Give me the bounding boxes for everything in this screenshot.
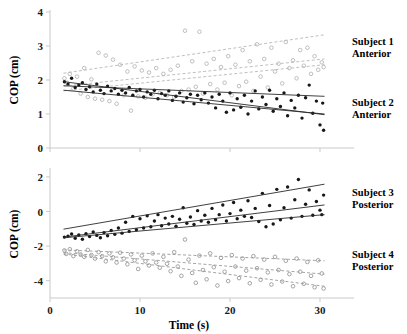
data-point bbox=[322, 65, 326, 69]
data-point bbox=[275, 188, 278, 191]
data-point bbox=[133, 258, 137, 262]
panel-top-panel: 01234COP (cm) bbox=[8, 6, 354, 154]
data-point bbox=[70, 232, 73, 235]
data-point bbox=[306, 260, 310, 264]
data-point bbox=[129, 109, 133, 113]
y-axis-title: COP (cm) bbox=[8, 209, 21, 258]
data-point bbox=[280, 82, 284, 86]
data-point bbox=[108, 99, 112, 103]
data-point bbox=[255, 43, 259, 47]
data-point bbox=[270, 283, 274, 287]
data-point bbox=[304, 96, 307, 99]
data-point bbox=[309, 274, 313, 278]
data-point bbox=[262, 57, 266, 61]
legend-label-line1: Subject 1 bbox=[352, 36, 394, 47]
data-point bbox=[162, 255, 166, 259]
legend-subject-1: Subject 1Anterior bbox=[352, 36, 394, 59]
data-point bbox=[232, 201, 235, 204]
legend-subject-4: Subject 4Posterior bbox=[352, 249, 394, 272]
data-point bbox=[95, 82, 98, 85]
data-point bbox=[90, 78, 94, 82]
data-point bbox=[190, 60, 194, 64]
data-point bbox=[322, 193, 325, 196]
legend-label-line2: Anterior bbox=[352, 48, 391, 59]
y-tick-label: -4 bbox=[34, 275, 44, 287]
data-point bbox=[286, 114, 289, 117]
data-point bbox=[236, 97, 239, 100]
data-point bbox=[254, 207, 257, 210]
data-point bbox=[248, 60, 252, 64]
data-point bbox=[212, 265, 216, 269]
data-point bbox=[140, 69, 144, 73]
data-point bbox=[82, 66, 86, 70]
data-point bbox=[164, 216, 167, 219]
data-point bbox=[288, 272, 292, 276]
y-axis-title: COP (cm) bbox=[8, 55, 21, 104]
data-point bbox=[208, 252, 212, 256]
data-point bbox=[244, 80, 248, 84]
data-point bbox=[93, 97, 97, 101]
series-2 bbox=[63, 238, 326, 291]
figure-container: 01234COP (cm)Subject 1AnteriorSubject 2A… bbox=[0, 0, 407, 334]
data-point bbox=[308, 188, 311, 191]
data-point bbox=[104, 54, 108, 58]
data-point bbox=[205, 278, 209, 282]
data-point bbox=[214, 106, 217, 109]
data-point bbox=[309, 72, 313, 76]
data-point bbox=[293, 198, 296, 201]
data-point bbox=[115, 102, 119, 106]
plot-area bbox=[63, 29, 326, 132]
trend-line bbox=[64, 35, 325, 73]
data-point bbox=[219, 65, 223, 69]
data-point bbox=[144, 260, 148, 264]
data-point bbox=[183, 29, 187, 33]
data-point bbox=[318, 208, 321, 211]
data-point bbox=[241, 48, 245, 52]
legend-label-line2: Posterior bbox=[352, 261, 394, 272]
data-point bbox=[194, 281, 198, 285]
data-point bbox=[268, 204, 271, 207]
data-point bbox=[291, 284, 295, 288]
y-tick-label: -2 bbox=[34, 240, 44, 252]
data-point bbox=[111, 256, 115, 260]
series-1 bbox=[63, 178, 326, 241]
data-point bbox=[320, 272, 324, 276]
data-point bbox=[216, 88, 220, 92]
data-point bbox=[75, 75, 79, 79]
data-point bbox=[117, 226, 120, 229]
data-point bbox=[320, 61, 324, 65]
data-point bbox=[124, 221, 127, 224]
legend-label-line1: Subject 2 bbox=[352, 97, 394, 108]
data-point bbox=[313, 285, 317, 289]
data-point bbox=[315, 200, 318, 203]
data-point bbox=[223, 81, 227, 85]
data-point bbox=[254, 89, 257, 92]
data-point bbox=[133, 65, 137, 69]
y-tick-label: 4 bbox=[38, 6, 44, 18]
data-point bbox=[128, 230, 131, 233]
data-point bbox=[293, 106, 296, 109]
data-point bbox=[154, 66, 158, 70]
data-point bbox=[282, 206, 285, 209]
data-point bbox=[232, 108, 235, 111]
data-point bbox=[178, 218, 181, 221]
data-point bbox=[225, 219, 228, 222]
data-point bbox=[212, 57, 216, 61]
legend-label-line1: Subject 4 bbox=[352, 249, 394, 260]
data-point bbox=[99, 89, 102, 92]
data-point bbox=[322, 129, 325, 132]
data-point bbox=[243, 94, 246, 97]
data-point bbox=[322, 287, 326, 291]
data-point bbox=[81, 237, 84, 240]
data-point bbox=[126, 262, 130, 266]
trend-line bbox=[64, 59, 325, 86]
data-point bbox=[279, 105, 282, 108]
data-point bbox=[187, 258, 191, 262]
data-point bbox=[66, 82, 69, 85]
y-tick-label: 1 bbox=[38, 108, 44, 120]
data-point bbox=[194, 85, 198, 89]
data-point bbox=[308, 83, 311, 86]
x-tick-label: 0 bbox=[47, 304, 53, 316]
data-point bbox=[250, 99, 253, 102]
data-point bbox=[237, 84, 241, 88]
